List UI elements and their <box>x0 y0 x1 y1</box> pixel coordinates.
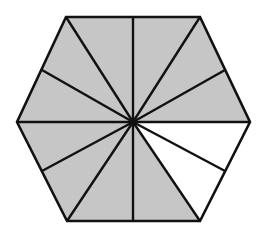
hexagon-diagram <box>0 0 260 234</box>
diagram-canvas <box>0 0 260 234</box>
